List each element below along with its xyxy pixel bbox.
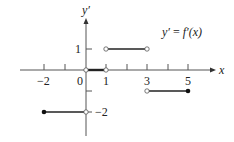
y-axis-label: y′ (82, 4, 90, 16)
tick-label-x-0: 0 (77, 75, 83, 87)
y-axis-arrow-icon (84, 18, 89, 24)
segment-1-to-3 (104, 47, 149, 51)
tick-label-x-1: 1 (103, 75, 109, 87)
tick-label-y-neg2: −2 (95, 106, 108, 118)
equation-equals: = (170, 25, 183, 39)
tick-label-y-1: 1 (75, 43, 81, 55)
segment-3-to-5 (145, 89, 191, 94)
function-equation: y′ = f′(x) (162, 25, 202, 40)
tick-label-x-3: 3 (144, 75, 150, 87)
segment-neg2-to-0 (42, 110, 89, 115)
equation-rhs: f′(x) (183, 25, 202, 39)
x-axis-arrow-icon (210, 68, 216, 73)
equation-lhs: y′ (162, 25, 170, 39)
derivative-graph (0, 0, 234, 142)
tick-label-x-neg2: −2 (37, 75, 50, 87)
x-ticks (44, 64, 188, 70)
tick-label-x-5: 5 (185, 75, 191, 87)
segment-0-to-1 (84, 68, 108, 72)
y-ticks (86, 49, 92, 112)
x-axis-label: x (219, 64, 224, 76)
